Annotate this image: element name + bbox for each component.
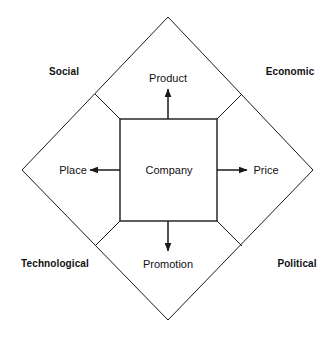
- marketing-mix-label-product: Product: [149, 73, 187, 84]
- environment-label-technological: Technological: [21, 259, 89, 269]
- marketing-mix-label-promotion: Promotion: [143, 259, 193, 270]
- marketing-environment-diagram: Social Economic Technological Political …: [0, 0, 332, 339]
- company-label: Company: [145, 165, 192, 176]
- environment-label-social: Social: [49, 67, 79, 77]
- environment-label-political: Political: [277, 259, 316, 269]
- marketing-mix-label-price: Price: [253, 165, 278, 176]
- environment-label-economic: Economic: [266, 67, 315, 77]
- connector-top-left: [95, 94, 120, 119]
- connector-bottom-right: [217, 221, 242, 246]
- marketing-mix-label-place: Place: [59, 165, 87, 176]
- connector-top-right: [217, 94, 242, 119]
- connector-bottom-left: [95, 221, 120, 246]
